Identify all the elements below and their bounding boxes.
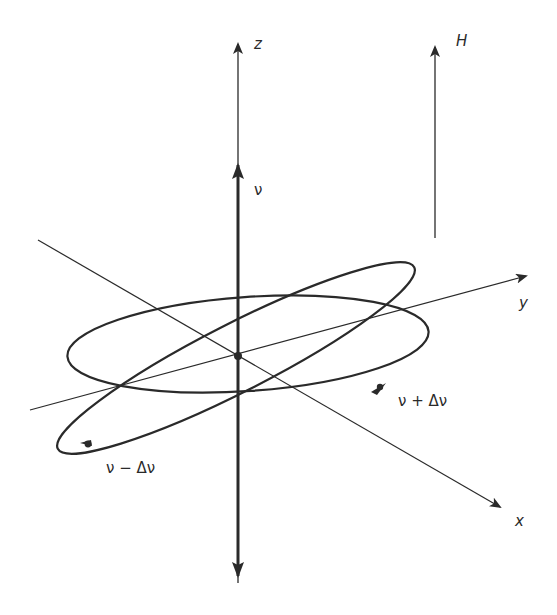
nu-label: ν	[254, 183, 262, 198]
nu-minus-label: ν − Δν	[106, 461, 155, 476]
x-axis-label: x	[515, 514, 524, 529]
origin-dot	[234, 352, 242, 360]
z-axis-label: z	[254, 37, 262, 52]
field-label: H	[456, 34, 467, 49]
precession-diagram	[0, 0, 557, 615]
nu-plus-label: ν + Δν	[398, 394, 447, 409]
y-axis-label: y	[519, 296, 528, 311]
